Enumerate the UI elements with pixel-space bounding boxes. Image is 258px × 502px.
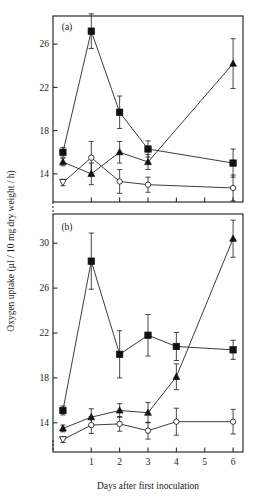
figure-container: 14182226(a)1418222630123456(b)Days after… (0, 0, 258, 502)
y-tick-label: 14 (40, 418, 50, 428)
marker-filled-triangle (173, 373, 180, 379)
marker-open-circle (89, 155, 94, 160)
marker-open-circle (117, 421, 122, 426)
y-axis-title: Oxygen uptake (µl / 10 mg dry weight / h… (6, 170, 17, 331)
x-tick-label: 6 (231, 457, 236, 467)
panel-frame-a (53, 16, 243, 202)
marker-filled-triangle (230, 60, 237, 66)
marker-filled-square (60, 407, 66, 413)
marker-filled-triangle (60, 158, 67, 164)
y-tick-label: 26 (40, 283, 50, 293)
y-tick-label: 22 (40, 328, 50, 338)
x-tick-label: 5 (202, 457, 207, 467)
panel-label-b: (b) (61, 222, 72, 233)
y-tick-label: 26 (40, 39, 50, 49)
marker-open-circle (174, 419, 179, 424)
x-axis-title: Days after first inoculation (97, 481, 199, 491)
y-tick-label: 30 (40, 238, 50, 248)
x-tick-label: 2 (117, 457, 122, 467)
x-tick-label: 4 (174, 457, 179, 467)
marker-filled-square (116, 351, 122, 357)
marker-filled-square (116, 109, 122, 115)
marker-filled-triangle (116, 407, 123, 413)
y-tick-label: 18 (40, 126, 50, 136)
marker-filled-triangle (230, 235, 237, 241)
y-tick-label: 22 (40, 83, 50, 93)
marker-open-circle (230, 419, 235, 424)
marker-filled-square (145, 146, 151, 152)
marker-open-circle (145, 428, 150, 433)
marker-filled-square (230, 160, 236, 166)
y-tick-label: 14 (40, 169, 50, 179)
oxygen-uptake-figure: 14182226(a)1418222630123456(b)Days after… (0, 0, 258, 502)
marker-filled-square (230, 347, 236, 353)
marker-filled-square (60, 149, 66, 155)
marker-open-triangle (60, 180, 67, 186)
marker-filled-square (173, 343, 179, 349)
marker-filled-square (88, 258, 94, 264)
x-tick-label: 3 (146, 457, 151, 467)
y-tick-label: 18 (40, 373, 50, 383)
marker-open-circle (117, 179, 122, 184)
panel-label-a: (a) (62, 22, 73, 33)
x-tick-label: 1 (89, 457, 94, 467)
marker-filled-square (88, 28, 94, 34)
marker-filled-triangle (116, 149, 123, 155)
marker-open-circle (89, 422, 94, 427)
marker-open-circle (230, 185, 235, 190)
marker-filled-square (145, 332, 151, 338)
marker-open-circle (145, 182, 150, 187)
